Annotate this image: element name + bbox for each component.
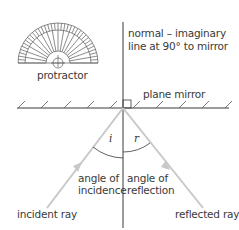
normal-label-line1: normal – imaginary bbox=[128, 27, 226, 40]
protractor-label: protractor bbox=[37, 69, 88, 82]
angle-r-label: r bbox=[134, 132, 139, 145]
incident-ray-label: incident ray bbox=[17, 208, 77, 221]
normal-label-line2: line at 90° to mirror bbox=[128, 40, 228, 53]
protractor-icon bbox=[18, 23, 98, 68]
angle-i-arc bbox=[93, 147, 123, 158]
angle-i-label: i bbox=[109, 132, 112, 145]
angle-of-reflection-line2: reflection bbox=[127, 184, 175, 197]
plane-mirror bbox=[17, 101, 232, 108]
angle-of-incidence-line2: incidence bbox=[78, 184, 126, 197]
reflected-ray-label: reflected ray bbox=[175, 208, 239, 221]
angle-of-reflection-line1: angle of bbox=[127, 172, 168, 185]
plane-mirror-label: plane mirror bbox=[143, 88, 205, 101]
right-angle-marker-icon bbox=[123, 100, 131, 108]
angle-of-incidence-line1: angle of bbox=[78, 172, 119, 185]
mirror-hatch-icon bbox=[18, 101, 232, 108]
